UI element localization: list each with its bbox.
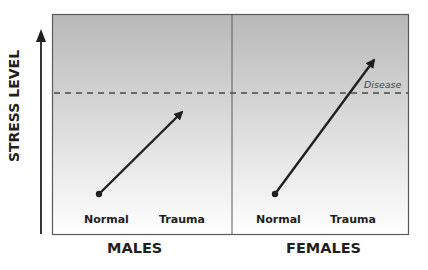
y-axis-label: STRESS LEVEL <box>6 46 22 166</box>
males-panel <box>52 14 232 235</box>
y-axis-arrow <box>36 29 46 234</box>
stress-diagram <box>0 0 428 270</box>
males-trauma-label: Trauma <box>159 213 205 226</box>
males-normal-label: Normal <box>84 213 129 226</box>
females-panel <box>232 14 409 235</box>
females-normal-label: Normal <box>256 213 301 226</box>
disease-label: Disease <box>364 79 401 90</box>
males-group-label: MALES <box>107 240 162 256</box>
females-trauma-label: Trauma <box>330 213 376 226</box>
females-group-label: FEMALES <box>286 240 361 256</box>
